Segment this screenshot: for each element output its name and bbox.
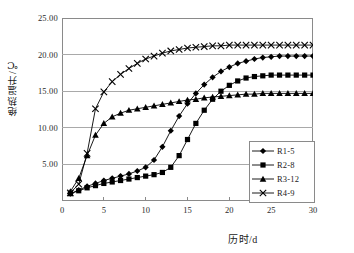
legend-label: R2-8 [275,160,295,170]
y-tick-label: 25.00 [18,13,58,23]
x-tick-label: 15 [173,205,203,215]
legend-label: R1-5 [275,146,295,156]
x-tick-label: 30 [298,205,328,215]
legend-item-r2-8[interactable]: R2-8 [251,158,314,172]
legend-marker-cross-icon [251,186,275,200]
x-axis-tick-labels: 051015202530 [0,205,354,219]
y-tick-label: 5.00 [18,159,58,169]
legend-label: R4-9 [275,188,295,198]
x-tick-label: 0 [47,205,77,215]
legend-item-r4-9[interactable]: R4-9 [251,186,314,200]
x-axis-title: 历时/d [228,231,258,246]
y-tick-label: 15.00 [18,86,58,96]
legend-item-r3-12[interactable]: R3-12 [251,172,314,186]
y-tick-label: 20.00 [18,50,58,60]
x-tick-label: 5 [89,205,119,215]
y-tick-label: 10.00 [18,123,58,133]
legend-label: R3-12 [275,174,299,184]
legend-item-r1-5[interactable]: R1-5 [251,144,314,158]
legend-marker-square-icon [251,158,275,172]
x-tick-label: 20 [214,205,244,215]
chart-legend: R1-5R2-8R3-12R4-9 [249,141,315,203]
x-tick-label: 10 [131,205,161,215]
x-tick-label: 25 [256,205,286,215]
legend-marker-diamond-icon [251,144,275,158]
adiabatic-temperature-rise-chart: 绝热温升/℃ 5.0010.0015.0020.0025.00 05101520… [0,0,354,253]
legend-marker-triangle-icon [251,172,275,186]
